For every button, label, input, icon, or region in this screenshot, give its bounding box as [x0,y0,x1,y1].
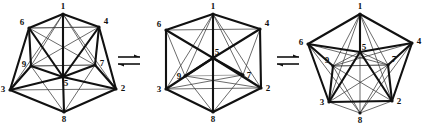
edge-3-2-bold [329,101,392,102]
vertex-3 [327,100,330,103]
cluster-rearrangement-figure: 164975328164597328164597328 [0,0,427,128]
vertex-label-1: 1 [211,1,216,11]
vertex-label-5: 5 [64,78,69,88]
vertex-9 [29,64,32,67]
vertex-label-1: 1 [61,1,66,11]
vertex-3 [8,88,11,91]
vertex-label-3: 3 [157,84,162,94]
vertex-label-3: 3 [320,97,325,107]
vertex-label-4: 4 [104,16,109,26]
vertex-label-4: 4 [265,18,270,28]
vertex-label-7: 7 [100,58,105,68]
vertex-label-2: 2 [121,83,126,93]
vertex-label-6: 6 [299,37,304,47]
vertex-label-2: 2 [266,83,271,93]
vertex-label-7: 7 [247,70,252,80]
vertex-6 [27,26,30,29]
vertex-label-9: 9 [177,71,182,81]
vertex-1 [211,12,214,15]
vertex-2 [259,86,262,89]
vertex-label-5: 5 [215,47,220,57]
vertex-2 [114,87,117,90]
vertex-label-1: 1 [358,1,363,11]
vertex-label-8: 8 [358,115,363,125]
vertex-7 [386,63,389,66]
vertex-label-6: 6 [157,19,162,29]
vertex-label-6: 6 [20,17,25,27]
figure-canvas: 164975328164597328164597328 [0,0,427,128]
edge-4-2-bold [260,29,261,88]
vertex-4 [258,27,261,30]
vertex-label-9: 9 [22,59,27,69]
vertex-9 [331,64,334,67]
vertex-label-2: 2 [397,96,402,106]
vertex-label-7: 7 [392,54,397,64]
vertex-3 [164,87,167,90]
vertex-2 [390,99,393,102]
vertex-9 [183,74,186,77]
vertex-label-9: 9 [325,55,330,65]
vertex-label-8: 8 [62,114,67,124]
vertex-label-5: 5 [362,42,367,52]
vertex-6 [164,28,167,31]
vertex-6 [306,42,309,45]
vertex-4 [410,41,413,44]
vertex-1 [358,12,361,15]
vertex-label-8: 8 [211,114,216,124]
vertex-7 [93,63,96,66]
vertex-label-3: 3 [1,84,6,94]
vertex-7 [241,73,244,76]
vertex-label-4: 4 [417,36,422,46]
vertex-1 [61,12,64,15]
vertex-4 [97,25,100,28]
